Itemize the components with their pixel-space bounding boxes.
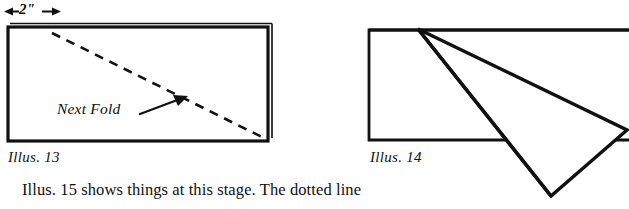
dimension-label-2in: 2": [19, 2, 35, 17]
folded-flap-fill: [418, 29, 627, 196]
illustration-page: 2" Next Fold Illus. 13 Illus. 14 Illus. …: [0, 0, 629, 209]
illus-14-caption: Illus. 14: [370, 150, 422, 165]
sheet-rectangle-13: [8, 27, 268, 141]
illus-13-figure: [4, 1, 272, 141]
arrow-head-right-icon: [52, 8, 61, 16]
next-fold-label: Next Fold: [57, 101, 120, 117]
body-text-line: Illus. 15 shows things at this stage. Th…: [22, 182, 361, 199]
illus-14-figure: [369, 29, 629, 196]
illus-13-caption: Illus. 13: [8, 150, 60, 165]
arrow-head-left-icon: [4, 8, 13, 16]
